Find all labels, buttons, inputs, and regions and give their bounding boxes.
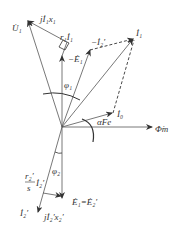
phi2-arc — [55, 152, 62, 153]
label-alpha-fe: αFe — [97, 117, 111, 127]
phasor-diagram: U̇₁ jİ₁x₁ r₁İ₁ −Ė₁ −İ₂′ İ₁ φ₁ İ₀ α… — [0, 0, 177, 239]
label-u1: U̇₁ — [12, 23, 22, 33]
label-r2s-i: İ₂′ — [35, 178, 45, 188]
label-i1: İ₁ — [135, 28, 142, 38]
label-e1-eq-e2: Ė₁=Ė₂′ — [71, 197, 98, 207]
label-neg-e1: −Ė₁ — [68, 54, 83, 64]
label-r2s-num: r₂′ — [25, 171, 35, 181]
alpha-fe-arc — [82, 119, 94, 142]
label-phi2: φ₂ — [52, 166, 60, 176]
label-ji1x1: jİ₁x₁ — [39, 14, 56, 24]
label-phim: Φ̇m — [155, 124, 169, 134]
label-r1i1: r₁İ₁ — [60, 32, 73, 42]
label-i2p: İ₂′ — [19, 208, 29, 218]
label-neg-i2p: −İ₂′ — [91, 37, 106, 47]
label-r2s-den: s — [27, 183, 31, 193]
label-i0: İ₀ — [116, 109, 123, 119]
ji2x2-vector — [43, 193, 61, 196]
label-phi1: φ₁ — [64, 80, 72, 90]
label-ji2x2: jİ₂′x₂′ — [43, 212, 65, 222]
